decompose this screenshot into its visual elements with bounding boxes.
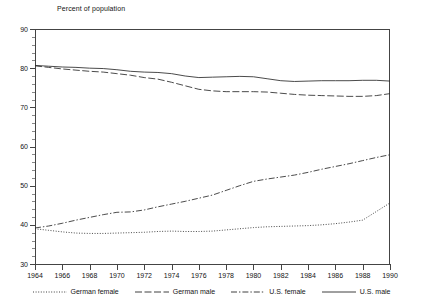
series-lines [35, 29, 390, 264]
x-axis-tick [335, 265, 336, 270]
x-axis-line [35, 264, 391, 265]
plot-area [35, 29, 390, 264]
x-axis-tick [90, 265, 91, 270]
legend-line-swatch-icon [135, 289, 169, 295]
legend-label: German male [173, 288, 215, 296]
x-axis-tick-label: 1990 [370, 272, 410, 280]
y-axis-tick-label: 30 [4, 261, 28, 268]
legend-line-swatch-icon [322, 289, 356, 295]
x-axis-tick [226, 265, 227, 270]
series-line [35, 203, 390, 234]
chart-legend: German femaleGerman maleU.S. femaleU.S. … [0, 286, 423, 298]
x-axis-tick [199, 265, 200, 270]
x-axis-tick [62, 265, 63, 270]
x-axis-tick [390, 265, 391, 270]
chart-axis-title: Percent of population [57, 5, 125, 12]
legend-label: German female [71, 288, 119, 296]
legend-item-german-male[interactable]: German male [135, 288, 215, 296]
y-axis-tick-label: 80 [4, 65, 28, 72]
legend-label: U.S. male [360, 288, 391, 296]
y-axis-tick-label: 90 [4, 26, 28, 33]
legend-label: U.S. female [269, 288, 306, 296]
series-line [35, 65, 390, 81]
x-axis-tick [308, 265, 309, 270]
y-axis-tick-label: 40 [4, 221, 28, 228]
y-axis-tick-label: 50 [4, 182, 28, 189]
legend-item-german-female[interactable]: German female [33, 288, 119, 296]
y-axis-tick-label: 60 [4, 143, 28, 150]
legend-line-swatch-icon [231, 289, 265, 295]
x-axis-tick [172, 265, 173, 270]
x-axis-tick [35, 265, 36, 270]
line-chart: Percent of population 90807060504030 196… [0, 0, 423, 299]
x-axis-tick [117, 265, 118, 270]
x-axis-tick [281, 265, 282, 270]
y-axis-tick-label: 70 [4, 104, 28, 111]
series-line [35, 155, 390, 228]
x-axis-tick [253, 265, 254, 270]
legend-item-u-s-female[interactable]: U.S. female [231, 288, 306, 296]
legend-line-swatch-icon [33, 289, 67, 295]
x-axis-tick [144, 265, 145, 270]
legend-item-u-s-male[interactable]: U.S. male [322, 288, 391, 296]
x-axis-tick [363, 265, 364, 270]
